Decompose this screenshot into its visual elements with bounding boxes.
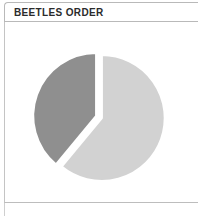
pie-chart xyxy=(5,23,197,203)
pie-slice-group xyxy=(33,53,165,181)
panel-footer-rule xyxy=(4,203,198,216)
chart-panel: BEETLES ORDER xyxy=(0,0,198,216)
pie-chart-svg xyxy=(5,23,197,203)
panel-header: BEETLES ORDER xyxy=(4,2,198,22)
page-title: BEETLES ORDER xyxy=(14,7,104,19)
